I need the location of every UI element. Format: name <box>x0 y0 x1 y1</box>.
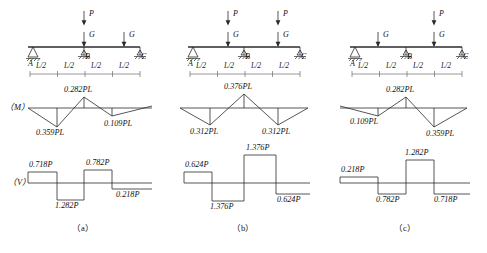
panel-b-graphics <box>160 0 322 253</box>
span-label-4: L/2 <box>441 62 451 70</box>
support-pin-a <box>350 47 360 57</box>
panel-a: P G G A B C L/2 L/2 L/2 L/2 （M） 0.282PL … <box>0 0 162 253</box>
load-label-g-1: G <box>233 31 239 39</box>
moment-diagram-tag: （M） <box>5 103 30 112</box>
load-arrowhead-p2 <box>432 20 437 25</box>
node-label-a: A <box>350 60 355 68</box>
support-pin-a <box>28 47 38 57</box>
panel-c: G P G A B C L/2 L/2 L/2 L/2 0.282PL 0.10… <box>322 0 484 253</box>
panel-a-graphics <box>0 0 162 253</box>
span-label-3: L/2 <box>413 62 423 70</box>
load-label-g-1: G <box>383 31 389 39</box>
shear-value-3: 1.282P <box>55 202 78 210</box>
support-hatch-b1 <box>401 57 404 60</box>
load-arrowhead-p2 <box>276 20 281 25</box>
shear-value-4: 0.718P <box>434 196 457 204</box>
span-label-1: L/2 <box>358 62 368 70</box>
node-label-c: C <box>301 53 306 61</box>
support-hatch-b1 <box>239 57 242 60</box>
span-label-3: L/2 <box>91 62 101 70</box>
moment-value-2: 0.312PL <box>190 128 218 136</box>
support-pin-a <box>188 47 198 57</box>
support-hatch-b1 <box>79 57 82 60</box>
moment-value-1: 0.376PL <box>224 83 252 91</box>
moment-value-1: 0.282PL <box>64 86 92 94</box>
span-label-2: L/2 <box>386 62 396 70</box>
support-hatch-c1 <box>135 57 138 60</box>
moment-value-3: 0.109PL <box>104 120 132 128</box>
node-label-b: B <box>407 53 412 61</box>
panel-caption-c: （c） <box>394 224 416 233</box>
node-label-a: A <box>188 60 193 68</box>
load-label-p-2: P <box>439 10 444 18</box>
panel-c-graphics <box>322 0 487 253</box>
load-label-g-2: G <box>439 31 445 39</box>
shear-value-2: 0.218P <box>341 166 364 174</box>
shear-diagram-tag: （V） <box>8 178 31 187</box>
moment-value-3: 0.359PL <box>426 130 454 138</box>
panel-caption-b: （b） <box>232 224 254 233</box>
support-hatch-c1 <box>295 57 298 60</box>
node-label-b: B <box>245 53 250 61</box>
moment-curve <box>28 97 152 127</box>
shear-value-1: 0.624P <box>185 161 208 169</box>
node-label-b: B <box>85 53 90 61</box>
support-hatch-c1 <box>457 57 460 60</box>
load-label-p-1: P <box>89 10 94 18</box>
moment-value-2: 0.109PL <box>350 118 378 126</box>
shear-value-1: 1.282P <box>405 149 428 157</box>
span-label-2: L/2 <box>64 62 74 70</box>
shear-value-3: 0.782P <box>376 196 399 204</box>
node-label-c: C <box>141 53 146 61</box>
moment-value-3: 0.312PL <box>262 128 290 136</box>
load-label-g-2: G <box>129 31 135 39</box>
node-label-c: C <box>463 53 468 61</box>
span-label-4: L/2 <box>279 62 289 70</box>
load-arrowhead-p1 <box>226 20 231 25</box>
span-label-1: L/2 <box>36 62 46 70</box>
load-label-g-2: G <box>283 31 289 39</box>
shear-value-1: 0.718P <box>29 161 52 169</box>
panel-caption-a: （a） <box>72 224 94 233</box>
span-label-3: L/2 <box>251 62 261 70</box>
load-label-g-1: G <box>89 31 95 39</box>
node-label-a: A <box>28 60 33 68</box>
shear-value-3: 1.376P <box>210 203 233 211</box>
moment-value-1: 0.282PL <box>386 86 414 94</box>
load-label-p-2: P <box>283 10 288 18</box>
load-label-p-1: P <box>233 10 238 18</box>
moment-value-2: 0.359PL <box>36 129 64 137</box>
span-label-1: L/2 <box>196 62 206 70</box>
shear-value-2: 1.376P <box>246 144 269 152</box>
span-label-4: L/2 <box>119 62 129 70</box>
load-arrowhead-p1 <box>82 20 87 25</box>
shear-value-4: 0.218P <box>116 191 139 199</box>
shear-value-4: 0.624P <box>277 196 300 204</box>
span-label-2: L/2 <box>224 62 234 70</box>
shear-value-2: 0.782P <box>86 159 109 167</box>
panel-b: P G P G A B C L/2 L/2 L/2 L/2 0.376PL 0.… <box>160 0 322 253</box>
